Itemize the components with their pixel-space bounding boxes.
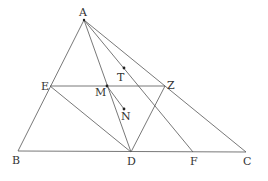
label-E: E bbox=[41, 80, 49, 93]
label-N: N bbox=[121, 110, 131, 123]
label-T: T bbox=[117, 71, 125, 84]
point-A-dot bbox=[83, 19, 85, 21]
label-M: M bbox=[95, 86, 106, 99]
label-A: A bbox=[78, 6, 88, 19]
label-F: F bbox=[190, 155, 198, 168]
geometry-diagram: A B C D F E Z M T N bbox=[0, 0, 268, 181]
segment-MN bbox=[107, 86, 124, 109]
label-Z: Z bbox=[167, 79, 175, 92]
segment-BC bbox=[18, 151, 246, 152]
point-T-dot bbox=[123, 67, 126, 70]
segment-AB bbox=[18, 20, 84, 151]
label-D: D bbox=[127, 155, 136, 168]
label-C: C bbox=[243, 155, 251, 168]
label-B: B bbox=[12, 154, 20, 167]
segment-ZD bbox=[131, 86, 165, 152]
